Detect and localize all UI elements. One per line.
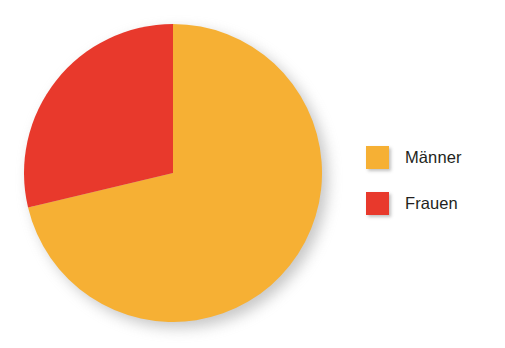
legend-label-maenner: Männer xyxy=(405,148,462,167)
legend-color-swatch-icon xyxy=(366,146,389,169)
legend-color-swatch-icon xyxy=(366,192,389,215)
legend-item-maenner[interactable]: Männer xyxy=(366,134,498,180)
legend-label-frauen: Frauen xyxy=(405,194,458,213)
chart-legend: Männer Frauen xyxy=(366,134,498,226)
pie-slices xyxy=(24,24,322,322)
pie-svg xyxy=(24,24,322,322)
pie-chart-figure: Männer Frauen xyxy=(0,0,505,348)
legend-item-frauen[interactable]: Frauen xyxy=(366,180,498,226)
pie-chart-area xyxy=(24,24,322,322)
